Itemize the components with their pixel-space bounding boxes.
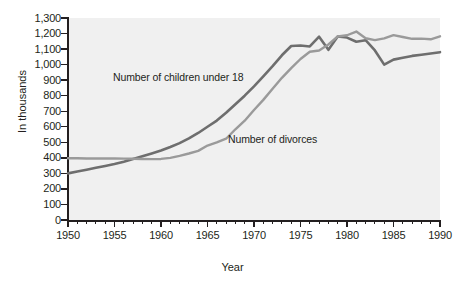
y-axis-title: In thousands [17, 58, 28, 146]
x-tick-minor [95, 220, 96, 224]
x-tick-minor [291, 220, 292, 224]
y-axis-line [67, 17, 69, 221]
y-tick-mark [61, 157, 67, 158]
x-tick-label: 1990 [417, 229, 463, 241]
x-tick-minor [328, 220, 329, 224]
x-tick-minor [421, 220, 422, 224]
x-tick-minor [226, 220, 227, 224]
x-tick-minor [365, 220, 366, 224]
y-tick-mark [61, 111, 67, 112]
x-tick-minor [263, 220, 264, 224]
x-tick-minor [412, 220, 413, 224]
x-tick-label: 1985 [371, 229, 417, 241]
series-label-divorces: Number of divorces [228, 134, 317, 145]
y-tick-mark [61, 33, 67, 34]
x-tick-minor [77, 220, 78, 224]
x-tick-minor [188, 220, 189, 224]
x-tick-minor [356, 220, 357, 224]
x-tick-label: 1975 [278, 229, 324, 241]
y-tick-mark [61, 126, 67, 127]
y-tick-mark [61, 188, 67, 189]
x-tick-minor [384, 220, 385, 224]
x-tick-minor [309, 220, 310, 224]
x-tick-minor [337, 220, 338, 224]
y-tick-label: 1,100 [3, 44, 61, 55]
x-tick-minor [179, 220, 180, 224]
x-tick-minor [198, 220, 199, 224]
x-tick-minor [151, 220, 152, 224]
x-tick-label: 1950 [45, 229, 91, 241]
x-tick-major [114, 220, 116, 227]
x-tick-label: 1970 [231, 229, 277, 241]
y-tick-mark [61, 142, 67, 143]
x-tick-label: 1980 [324, 229, 370, 241]
y-tick-mark [61, 79, 67, 80]
x-tick-label: 1955 [92, 229, 138, 241]
x-tick-minor [105, 220, 106, 224]
x-tick-major [67, 220, 69, 227]
x-tick-minor [123, 220, 124, 224]
x-tick-major [300, 220, 302, 227]
x-tick-minor [235, 220, 236, 224]
y-tick-label: 100 [3, 199, 61, 210]
y-tick-label: 400 [3, 152, 61, 163]
line-chart: 01002003004005006007008009001,0001,1001,… [0, 0, 465, 289]
series-label-children: Number of children under 18 [113, 72, 243, 83]
x-tick-minor [142, 220, 143, 224]
y-tick-mark [61, 173, 67, 174]
y-tick-label: 1,200 [3, 28, 61, 39]
y-tick-mark [61, 95, 67, 96]
x-tick-minor [281, 220, 282, 224]
x-tick-major [253, 220, 255, 227]
x-tick-major [160, 220, 162, 227]
x-axis-title: Year [0, 262, 465, 273]
x-tick-minor [272, 220, 273, 224]
x-tick-minor [430, 220, 431, 224]
y-tick-label: 0 [3, 215, 61, 226]
x-tick-minor [86, 220, 87, 224]
x-tick-major [207, 220, 209, 227]
y-tick-mark [61, 219, 67, 220]
x-tick-minor [244, 220, 245, 224]
x-tick-label: 1960 [138, 229, 184, 241]
y-tick-mark [61, 64, 67, 65]
x-tick-major [346, 220, 348, 227]
y-tick-label: 700 [3, 106, 61, 117]
x-tick-major [439, 220, 441, 227]
y-tick-mark [61, 48, 67, 49]
y-tick-label: 1,000 [3, 59, 61, 70]
x-tick-minor [319, 220, 320, 224]
x-tick-minor [170, 220, 171, 224]
x-tick-major [393, 220, 395, 227]
y-tick-label: 200 [3, 183, 61, 194]
x-tick-minor [133, 220, 134, 224]
y-tick-label: 300 [3, 168, 61, 179]
x-tick-minor [402, 220, 403, 224]
y-tick-label: 1,300 [3, 13, 61, 24]
y-tick-label: 500 [3, 137, 61, 148]
y-tick-label: 900 [3, 75, 61, 86]
x-tick-label: 1965 [185, 229, 231, 241]
x-tick-minor [216, 220, 217, 224]
plot-area [68, 18, 440, 220]
y-tick-label: 600 [3, 121, 61, 132]
y-tick-label: 800 [3, 90, 61, 101]
y-tick-mark [61, 17, 67, 18]
y-tick-mark [61, 204, 67, 205]
x-tick-minor [374, 220, 375, 224]
